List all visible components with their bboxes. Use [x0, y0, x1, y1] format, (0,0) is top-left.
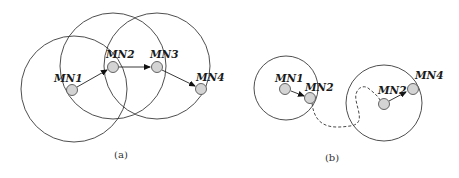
node-mn1 — [280, 84, 291, 95]
label-mn3: MN3 — [149, 48, 179, 60]
label-mn4: MN4 — [414, 69, 444, 81]
label-mn2-before: MN2 — [304, 81, 334, 93]
node-mn1 — [67, 85, 78, 96]
node-mn2-after — [379, 99, 390, 110]
node-mn4 — [196, 84, 207, 95]
panel-b: MN1 MN2 MN2 MN4 (b) — [254, 56, 444, 163]
label-mn2: MN2 — [105, 48, 135, 60]
panel-a: MN1 MN2 MN3 MN4 (a) — [21, 13, 225, 160]
node-mn4 — [408, 84, 419, 95]
arrow-mn3-mn4 — [162, 70, 195, 86]
node-mn2 — [108, 62, 119, 73]
label-mn1: MN1 — [274, 72, 304, 84]
node-mn3 — [152, 62, 163, 73]
label-mn4: MN4 — [195, 71, 225, 83]
node-mn2-before — [305, 93, 316, 104]
label-mn1: MN1 — [53, 72, 83, 84]
label-mn2-after: MN2 — [377, 84, 407, 96]
arrow-mn1-mn2 — [291, 91, 304, 96]
diagram-canvas: MN1 MN2 MN3 MN4 (a) MN1 MN2 MN2 MN4 (b) — [0, 0, 459, 178]
caption-b: (b) — [325, 152, 339, 163]
caption-a: (a) — [114, 149, 128, 160]
